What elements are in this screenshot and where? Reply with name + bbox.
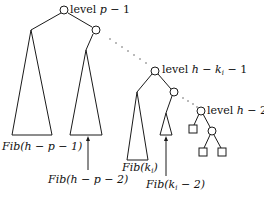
bottom-right-node [208, 127, 216, 135]
label-fib-ki-2: Fib(ki − 2) [145, 178, 205, 192]
dotted-connector-1 [109, 38, 146, 63]
label-level-p-1: level p − 1 [70, 3, 130, 16]
subtree-fib-ki-2 [160, 113, 172, 135]
leaf-square-2 [199, 148, 207, 156]
label-fib-h-p-1: Fib(h − p − 1) [1, 140, 82, 153]
label-level-h-2: level h − 2 [207, 104, 264, 117]
fibonacci-tree-diagram: level p − 1 level h − ki − 1 level h − 2… [0, 0, 264, 197]
leaf-square-3 [218, 148, 226, 156]
bottom-root-node [197, 107, 205, 115]
label-fib-ki: Fib(ki) [121, 161, 158, 175]
root-node [60, 6, 68, 14]
subtree-fib-ki [127, 92, 148, 160]
dotted-connector-2 [182, 97, 197, 107]
subtree-fib-h-p-2 [70, 50, 102, 135]
mid-tree [127, 67, 178, 160]
label-level-h-ki-1: level h − ki − 1 [162, 63, 247, 77]
subtree-fib-h-p-1 [12, 30, 52, 135]
mid-right-child-node [170, 88, 178, 96]
right-child-node [92, 26, 100, 34]
label-fib-h-p-2: Fib(h − p − 2) [47, 173, 128, 186]
leaf-square-1 [189, 125, 197, 133]
top-tree [12, 6, 102, 135]
mid-root-node [151, 67, 159, 75]
